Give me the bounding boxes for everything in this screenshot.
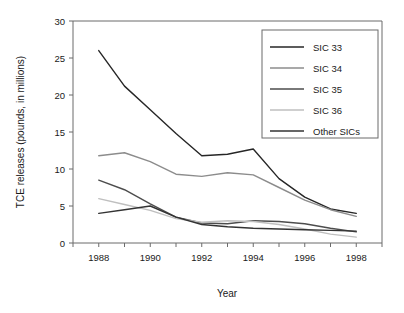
- y-tick-label: 5: [60, 201, 65, 212]
- x-tick-label: 1994: [243, 252, 264, 263]
- legend-label-other-sics: Other SICs: [313, 126, 360, 137]
- y-tick-label: 15: [54, 127, 65, 138]
- y-axis-title: TCE releases (pounds, in millions): [15, 56, 26, 208]
- y-tick-label: 25: [54, 53, 65, 64]
- x-tick-label: 1998: [346, 252, 367, 263]
- legend-label-sic-34: SIC 34: [313, 63, 342, 74]
- x-tick-label: 1990: [140, 252, 161, 263]
- legend-label-sic-33: SIC 33: [313, 42, 342, 53]
- x-axis-title: Year: [217, 288, 238, 299]
- x-tick-label: 1992: [191, 252, 212, 263]
- x-axis-ticks: 198819901992199419961998: [73, 243, 382, 263]
- x-tick-label: 1996: [294, 252, 315, 263]
- chart-figure: 051015202530 198819901992199419961998 Ye…: [0, 0, 404, 313]
- y-tick-label: 30: [54, 16, 65, 27]
- series-line-sic-35: [99, 180, 357, 232]
- y-tick-label: 0: [60, 238, 65, 249]
- legend-label-sic-36: SIC 36: [313, 105, 342, 116]
- series-line-other-sics: [99, 206, 357, 231]
- y-tick-label: 10: [54, 164, 65, 175]
- legend-label-sic-35: SIC 35: [313, 84, 342, 95]
- y-tick-label: 20: [54, 90, 65, 101]
- x-tick-label: 1988: [88, 252, 109, 263]
- line-chart: 051015202530 198819901992199419961998 Ye…: [0, 0, 404, 313]
- y-axis-ticks: 051015202530: [54, 16, 73, 249]
